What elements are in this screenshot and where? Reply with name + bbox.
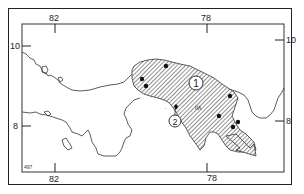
lat-label-left-10: 10 [10,42,20,51]
lat-label-right-8: 8 [286,117,291,126]
lat-label-left-8: 8 [13,122,18,131]
lat-label-right-10: 10 [286,36,296,45]
range-label-2: 2 [172,117,177,127]
lon-label-top-78: 78 [201,14,211,23]
town-marks: ꟾ:ꟾꓥ [195,105,202,111]
lon-label-bottom-78: 78 [207,174,217,183]
svg-text:ꞏ: ꞏ [165,106,166,111]
lon-label-top-82: 82 [49,14,59,23]
lon-label-bottom-82: 82 [49,175,59,184]
range-map: 1 2 ꞏ ꟾ:ꟾꓥ [0,0,304,194]
corner-code: 497 [24,164,32,170]
range-label-1: 1 [193,78,199,89]
